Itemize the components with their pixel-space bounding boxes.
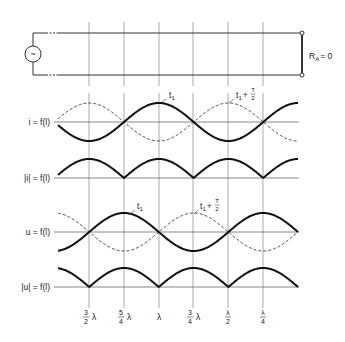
annotation-i-t1-half: t1+ T 2	[229, 87, 256, 103]
svg-text:3: 3	[84, 309, 88, 316]
x-tick-label: λ4	[260, 309, 266, 325]
curve-abs_i-solid	[58, 159, 298, 178]
plot-axes	[54, 122, 299, 287]
svg-text:λ: λ	[196, 312, 201, 322]
svg-text:λ: λ	[157, 312, 162, 322]
x-tick-label: 32λ	[83, 309, 97, 325]
load-label: RA= 0	[309, 51, 332, 62]
plot-label-i: i = f(l)	[29, 117, 51, 127]
plot-label-abs-i: |i| = f(l)	[24, 173, 50, 183]
svg-text:4: 4	[119, 318, 123, 325]
svg-text:t1+: t1+	[200, 201, 212, 212]
svg-text:λ: λ	[226, 309, 230, 316]
svg-text:2: 2	[226, 318, 230, 325]
source-symbol: ~	[30, 49, 35, 59]
svg-text:λ: λ	[92, 312, 97, 322]
svg-text:4: 4	[261, 318, 265, 325]
annotation-i-t1: t1	[161, 90, 175, 103]
svg-text:λ: λ	[127, 312, 132, 322]
svg-text:λ: λ	[261, 309, 265, 316]
svg-text:T: T	[251, 87, 255, 93]
x-tick-label: 34λ	[187, 309, 201, 325]
waveform-curves	[58, 103, 298, 287]
x-tick-labels: 32λ54λλ34λλ2λ4	[83, 309, 266, 325]
x-tick-label: 54λ	[118, 309, 132, 325]
x-tick-label: λ	[157, 312, 162, 322]
transmission-line-circuit	[25, 31, 304, 77]
terminal-top-icon	[300, 31, 304, 35]
annotation-u-t1: t1	[130, 201, 143, 214]
svg-text:2: 2	[215, 206, 219, 212]
standing-wave-diagram: ~ RA= 0 i = f(l) |i| = f(l) u = f(l) |u|…	[0, 0, 345, 342]
plot-label-abs-u: |u| = f(l)	[21, 282, 50, 292]
curve-abs_u-solid	[58, 268, 298, 287]
svg-text:T: T	[215, 198, 219, 204]
svg-text:t1: t1	[169, 90, 175, 101]
top-wire	[33, 33, 46, 46]
svg-text:t1: t1	[137, 201, 143, 212]
x-tick-label: λ2	[225, 309, 231, 325]
svg-text:4: 4	[188, 318, 192, 325]
annotation-u-t1-half: t1+ T 2	[194, 198, 220, 214]
plot-label-u: u = f(l)	[26, 227, 50, 237]
svg-text:2: 2	[251, 95, 255, 101]
svg-text:5: 5	[119, 309, 123, 316]
bottom-wire	[33, 62, 46, 75]
terminal-bottom-icon	[300, 73, 304, 77]
svg-text:2: 2	[84, 318, 88, 325]
svg-text:3: 3	[188, 309, 192, 316]
svg-text:t1+: t1+	[236, 90, 248, 101]
